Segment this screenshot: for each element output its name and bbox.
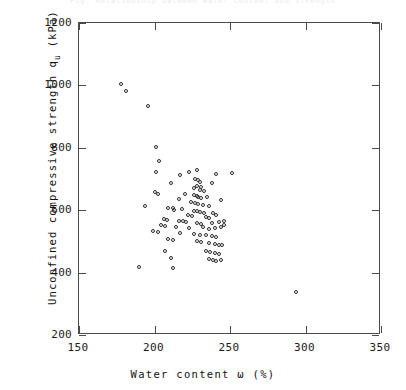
data-point: [214, 259, 218, 263]
data-point: [178, 231, 182, 235]
x-axis-tick: [306, 23, 307, 30]
data-point: [219, 198, 223, 202]
data-point: [204, 233, 208, 237]
data-point: [230, 171, 234, 175]
y-axis-tick: [79, 335, 86, 336]
data-point: [166, 237, 170, 241]
data-point: [210, 181, 214, 185]
data-point: [207, 216, 211, 220]
data-point: [156, 192, 160, 196]
data-point: [143, 204, 147, 208]
data-point: [219, 258, 223, 262]
y-axis-tick: [372, 273, 379, 274]
y-axis-tick: [372, 210, 379, 211]
x-axis-tick: [155, 326, 156, 333]
data-point: [220, 243, 224, 247]
x-axis-tick: [381, 326, 382, 333]
scatter-plot-figure: Fig. Relationship between water content …: [0, 0, 406, 390]
data-point: [187, 170, 191, 174]
data-point: [198, 180, 202, 184]
data-point: [124, 89, 128, 93]
x-axis-tick: [230, 23, 231, 30]
data-point: [195, 221, 199, 225]
data-point: [213, 226, 217, 230]
data-point: [204, 249, 208, 253]
data-point: [199, 196, 203, 200]
x-axis-tick: [230, 326, 231, 333]
data-point: [210, 221, 214, 225]
x-tick-label: 150: [56, 342, 100, 353]
data-point: [157, 159, 161, 163]
y-axis-title: Unconfined compressive strength qu (kPa): [46, 8, 61, 308]
data-point: [205, 195, 209, 199]
data-point: [217, 252, 221, 256]
y-axis-tick: [79, 273, 86, 274]
x-axis-title: Water content ω (%): [0, 368, 406, 380]
x-axis-tick: [155, 23, 156, 30]
y-axis-tick: [79, 148, 86, 149]
data-point: [146, 104, 150, 108]
data-point: [169, 256, 173, 260]
y-axis-tick: [372, 335, 379, 336]
data-point: [187, 226, 191, 230]
data-point: [177, 197, 181, 201]
plot-frame: [78, 22, 380, 334]
data-point: [222, 219, 226, 223]
data-point: [156, 230, 160, 234]
data-point: [178, 173, 182, 177]
data-point: [174, 225, 178, 229]
data-point: [207, 241, 211, 245]
data-point: [192, 186, 196, 190]
data-point: [294, 290, 298, 294]
data-point: [198, 233, 202, 237]
data-point: [151, 229, 155, 233]
data-point: [208, 250, 212, 254]
data-point: [171, 238, 175, 242]
y-axis-tick: [79, 23, 86, 24]
x-tick-label: 300: [283, 342, 327, 353]
data-point: [192, 232, 196, 236]
data-point: [210, 234, 214, 238]
data-point: [119, 82, 123, 86]
data-point: [186, 213, 190, 217]
y-axis-title-unit: (kPa): [46, 10, 58, 55]
data-point: [183, 192, 187, 196]
data-point: [154, 170, 158, 174]
data-point: [201, 225, 205, 229]
data-point: [201, 203, 205, 207]
data-point: [195, 239, 199, 243]
y-axis-title-main: Unconfined compressive strength q: [46, 60, 58, 305]
y-axis-tick: [372, 85, 379, 86]
data-point: [166, 206, 170, 210]
data-point: [214, 235, 218, 239]
data-point: [171, 266, 175, 270]
data-point: [159, 223, 163, 227]
x-axis-tick: [79, 23, 80, 30]
data-point: [163, 249, 167, 253]
data-point: [189, 200, 193, 204]
x-tick-label: 200: [132, 342, 176, 353]
data-point: [207, 227, 211, 231]
data-point: [177, 219, 181, 223]
data-point: [217, 220, 221, 224]
x-axis-tick: [306, 326, 307, 333]
data-point: [214, 172, 218, 176]
data-point: [199, 240, 203, 244]
data-points-layer: [79, 23, 379, 333]
data-point: [180, 207, 184, 211]
data-point: [137, 265, 141, 269]
data-point: [214, 213, 218, 217]
data-point: [222, 223, 226, 227]
y-axis-tick: [79, 85, 86, 86]
data-point: [190, 214, 194, 218]
data-point: [207, 204, 211, 208]
x-axis-tick: [79, 326, 80, 333]
data-point: [202, 189, 206, 193]
x-tick-label: 250: [207, 342, 251, 353]
x-tick-label: 350: [358, 342, 402, 353]
data-point: [213, 251, 217, 255]
data-point: [172, 208, 176, 212]
data-point: [165, 218, 169, 222]
y-axis-tick: [79, 210, 86, 211]
y-axis-title-subscript: u: [53, 55, 62, 60]
